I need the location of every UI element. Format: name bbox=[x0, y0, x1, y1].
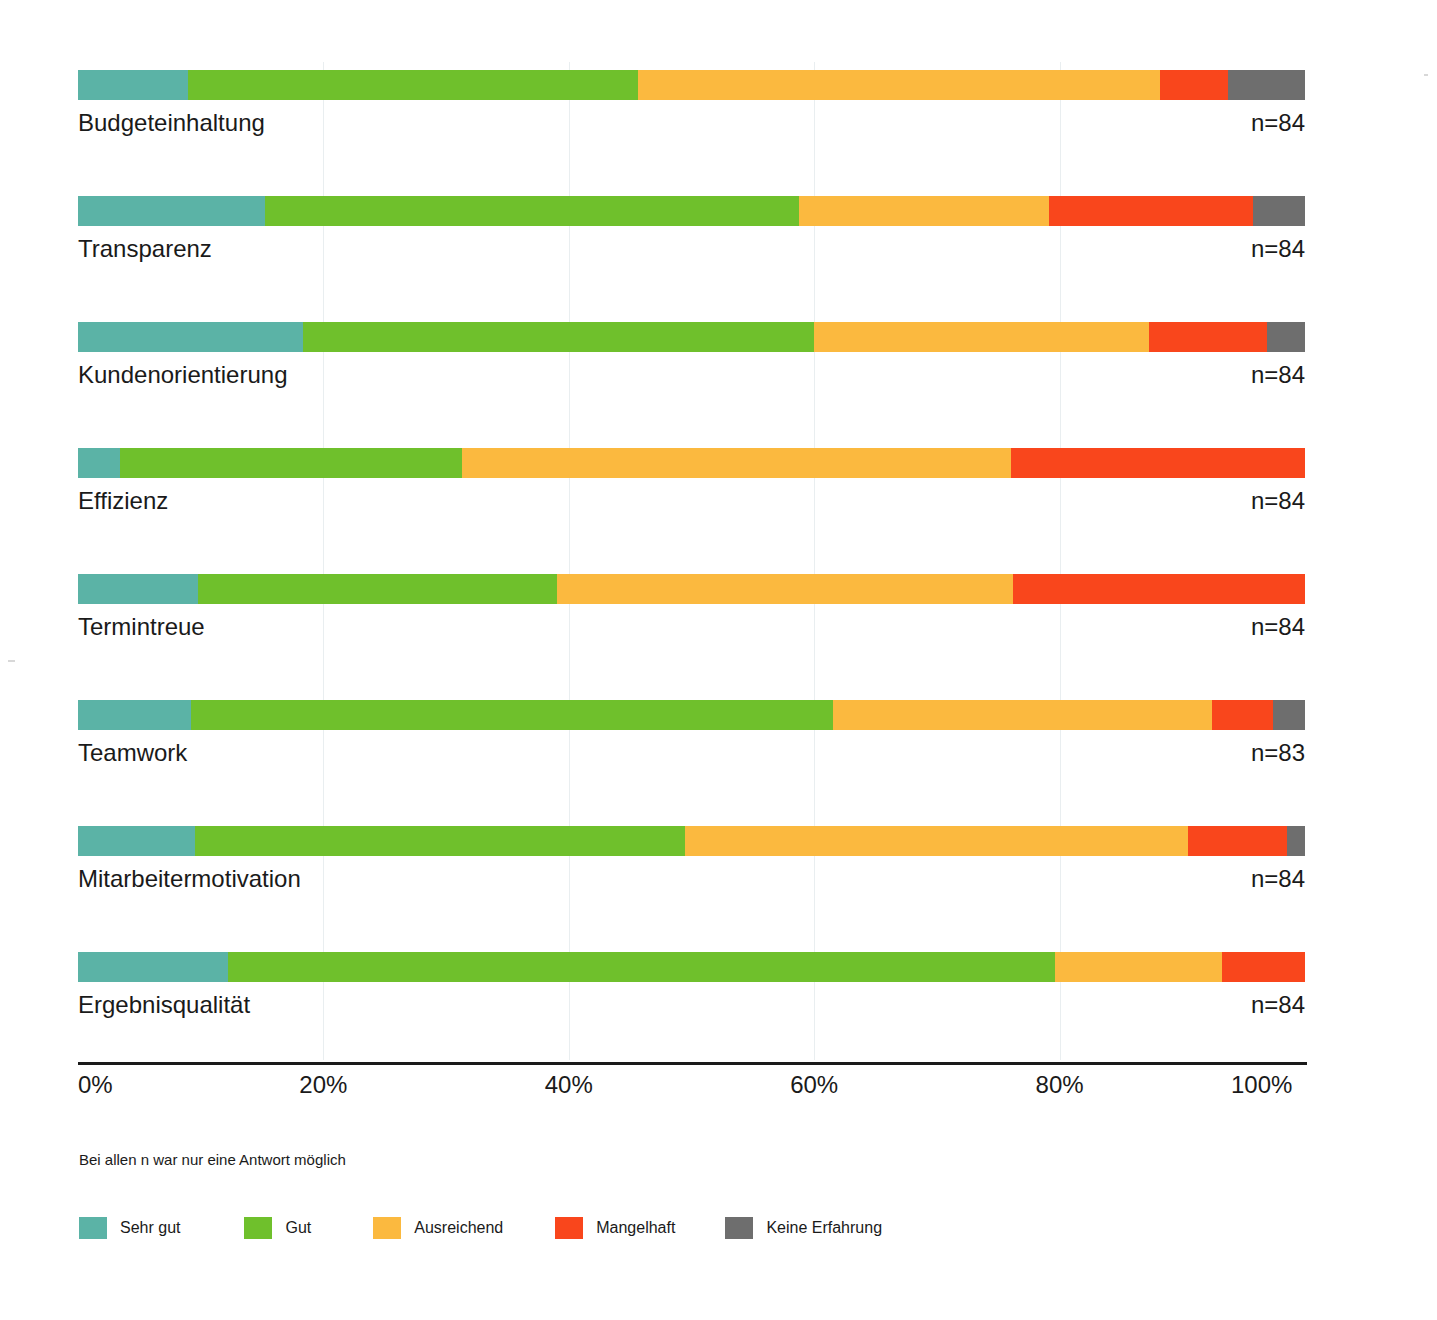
legend-swatch-icon bbox=[725, 1217, 753, 1239]
bar-segment-sehr-gut[interactable] bbox=[78, 574, 198, 604]
row-label: Budgeteinhaltung bbox=[78, 110, 265, 136]
bar-rows: Budgeteinhaltungn=84Transparenzn=84Kunde… bbox=[78, 62, 1305, 1060]
legend-item[interactable]: Mangelhaft bbox=[555, 1217, 675, 1239]
row-sample-size: n=84 bbox=[1251, 362, 1305, 388]
row-label: Mitarbeitermotivation bbox=[78, 866, 301, 892]
row-label: Effizienz bbox=[78, 488, 168, 514]
bar-segment-sehr-gut[interactable] bbox=[78, 826, 195, 856]
legend-item[interactable]: Ausreichend bbox=[373, 1217, 503, 1239]
row-label: Termintreue bbox=[78, 614, 205, 640]
chart-page: Budgeteinhaltungn=84Transparenzn=84Kunde… bbox=[0, 0, 1437, 1320]
bar-segment-ausreichend[interactable] bbox=[462, 448, 1010, 478]
chart-row: Teamworkn=83 bbox=[78, 692, 1305, 818]
bar-segment-mangelhaft[interactable] bbox=[1212, 700, 1273, 730]
bar-segment-ausreichend[interactable] bbox=[638, 70, 1161, 100]
chart-row: Transparenzn=84 bbox=[78, 188, 1305, 314]
legend-swatch-icon bbox=[244, 1217, 272, 1239]
bar-segment-ausreichend[interactable] bbox=[799, 196, 1048, 226]
x-axis-ticks: 0%20%40%60%80%100% bbox=[78, 1070, 1305, 1104]
bar-segment-ausreichend[interactable] bbox=[814, 322, 1149, 352]
legend-item[interactable]: Gut bbox=[244, 1217, 311, 1239]
x-tick-label: 100% bbox=[1231, 1070, 1292, 1100]
row-sample-size: n=84 bbox=[1251, 488, 1305, 514]
bar-segment-gut[interactable] bbox=[195, 826, 686, 856]
legend-swatch-icon bbox=[79, 1217, 107, 1239]
row-label: Teamwork bbox=[78, 740, 187, 766]
row-sample-size: n=84 bbox=[1251, 110, 1305, 136]
bar-segment-ausreichend[interactable] bbox=[685, 826, 1188, 856]
bar-segment-gut[interactable] bbox=[191, 700, 833, 730]
bar-segment-ausreichend[interactable] bbox=[1055, 952, 1222, 982]
bar-segment-keine-erfahrung[interactable] bbox=[1228, 70, 1305, 100]
chart-row: Mitarbeitermotivationn=84 bbox=[78, 818, 1305, 944]
bar-segment-sehr-gut[interactable] bbox=[78, 952, 228, 982]
scan-artifact bbox=[1424, 74, 1428, 76]
bar-segment-sehr-gut[interactable] bbox=[78, 196, 265, 226]
chart-row: Termintreuen=84 bbox=[78, 566, 1305, 692]
stacked-bar[interactable] bbox=[78, 448, 1305, 478]
row-sample-size: n=84 bbox=[1251, 614, 1305, 640]
stacked-bar[interactable] bbox=[78, 196, 1305, 226]
bar-segment-gut[interactable] bbox=[188, 70, 637, 100]
bar-segment-mangelhaft[interactable] bbox=[1160, 70, 1227, 100]
row-label: Ergebnisqualität bbox=[78, 992, 250, 1018]
legend-item[interactable]: Keine Erfahrung bbox=[725, 1217, 882, 1239]
legend-swatch-icon bbox=[373, 1217, 401, 1239]
bar-segment-keine-erfahrung[interactable] bbox=[1287, 826, 1305, 856]
x-tick-label: 0% bbox=[78, 1070, 113, 1100]
legend-label: Mangelhaft bbox=[596, 1218, 675, 1238]
bar-segment-mangelhaft[interactable] bbox=[1011, 448, 1305, 478]
legend-label: Gut bbox=[285, 1218, 311, 1238]
row-sample-size: n=84 bbox=[1251, 236, 1305, 262]
stacked-bar[interactable] bbox=[78, 826, 1305, 856]
x-axis-line bbox=[78, 1062, 1307, 1065]
footnote: Bei allen n war nur eine Antwort möglich bbox=[79, 1150, 346, 1170]
stacked-bar[interactable] bbox=[78, 700, 1305, 730]
bar-segment-mangelhaft[interactable] bbox=[1188, 826, 1286, 856]
legend-swatch-icon bbox=[555, 1217, 583, 1239]
bar-segment-gut[interactable] bbox=[120, 448, 462, 478]
chart-legend: Sehr gutGutAusreichendMangelhaftKeine Er… bbox=[79, 1216, 920, 1240]
bar-segment-mangelhaft[interactable] bbox=[1222, 952, 1305, 982]
bar-segment-sehr-gut[interactable] bbox=[78, 448, 120, 478]
stacked-bar[interactable] bbox=[78, 952, 1305, 982]
legend-label: Sehr gut bbox=[120, 1218, 180, 1238]
row-label: Transparenz bbox=[78, 236, 212, 262]
legend-item[interactable]: Sehr gut bbox=[79, 1217, 180, 1239]
bar-segment-gut[interactable] bbox=[265, 196, 800, 226]
bar-segment-gut[interactable] bbox=[198, 574, 556, 604]
bar-segment-mangelhaft[interactable] bbox=[1013, 574, 1305, 604]
stacked-bar[interactable] bbox=[78, 574, 1305, 604]
bar-segment-keine-erfahrung[interactable] bbox=[1267, 322, 1305, 352]
chart-row: Ergebnisqualitätn=84 bbox=[78, 944, 1305, 1070]
row-label: Kundenorientierung bbox=[78, 362, 288, 388]
plot-area: Budgeteinhaltungn=84Transparenzn=84Kunde… bbox=[78, 62, 1305, 1060]
legend-label: Keine Erfahrung bbox=[766, 1218, 882, 1238]
row-sample-size: n=84 bbox=[1251, 866, 1305, 892]
x-tick-label: 40% bbox=[545, 1070, 593, 1100]
chart-row: Kundenorientierungn=84 bbox=[78, 314, 1305, 440]
chart-row: Effizienzn=84 bbox=[78, 440, 1305, 566]
row-sample-size: n=83 bbox=[1251, 740, 1305, 766]
bar-segment-ausreichend[interactable] bbox=[833, 700, 1212, 730]
chart-row: Budgeteinhaltungn=84 bbox=[78, 62, 1305, 188]
bar-segment-gut[interactable] bbox=[228, 952, 1055, 982]
legend-label: Ausreichend bbox=[414, 1218, 503, 1238]
stacked-bar[interactable] bbox=[78, 70, 1305, 100]
bar-segment-sehr-gut[interactable] bbox=[78, 322, 303, 352]
bar-segment-sehr-gut[interactable] bbox=[78, 70, 188, 100]
bar-segment-ausreichend[interactable] bbox=[557, 574, 1013, 604]
scan-artifact bbox=[8, 660, 15, 662]
bar-segment-keine-erfahrung[interactable] bbox=[1273, 700, 1305, 730]
bar-segment-mangelhaft[interactable] bbox=[1149, 322, 1267, 352]
x-tick-label: 80% bbox=[1036, 1070, 1084, 1100]
bar-segment-mangelhaft[interactable] bbox=[1049, 196, 1254, 226]
bar-segment-gut[interactable] bbox=[303, 322, 815, 352]
x-tick-label: 20% bbox=[299, 1070, 347, 1100]
x-tick-label: 60% bbox=[790, 1070, 838, 1100]
row-sample-size: n=84 bbox=[1251, 992, 1305, 1018]
stacked-bar[interactable] bbox=[78, 322, 1305, 352]
bar-segment-keine-erfahrung[interactable] bbox=[1253, 196, 1305, 226]
bar-segment-sehr-gut[interactable] bbox=[78, 700, 191, 730]
